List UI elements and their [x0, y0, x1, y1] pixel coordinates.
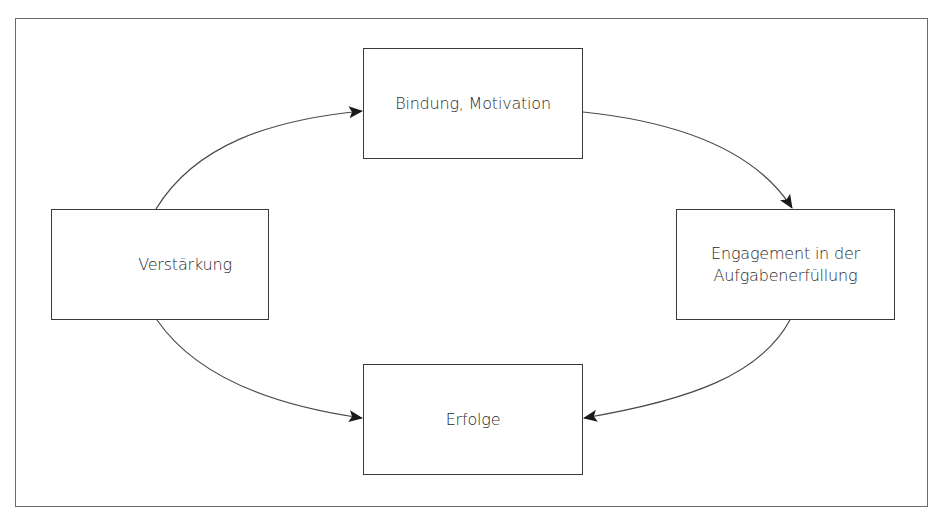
node-label: Bindung, Motivation: [395, 93, 551, 115]
node-engagement: Engagement in der Aufgabenerfüllung: [676, 209, 895, 320]
node-bindung-motivation: Bindung, Motivation: [363, 48, 583, 159]
node-verstaerkung: Verstärkung: [51, 209, 269, 320]
node-label-line-1: Engagement in der: [711, 243, 860, 265]
node-label: Erfolge: [446, 409, 501, 431]
node-erfolge: Erfolge: [363, 364, 583, 475]
node-label-line-2: Aufgabenerfüllung: [711, 265, 860, 287]
node-label: Verstärkung: [88, 254, 232, 276]
